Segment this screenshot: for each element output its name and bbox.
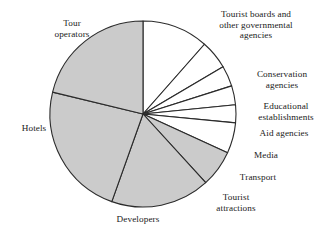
pie-label-developers: Developers: [98, 214, 178, 225]
pie-label-conservation-agencies: Conservation agencies: [240, 69, 324, 90]
pie-slice-group: [50, 21, 236, 207]
pie-label-tour-operators: Tour operators: [38, 18, 106, 39]
pie-label-tourist-attractions: Tourist attractions: [200, 192, 272, 213]
pie-label-tourist-boards: Tourist boards and other governmental ag…: [196, 9, 316, 41]
pie-label-aid-agencies: Aid agencies: [244, 128, 324, 139]
pie-label-educational-establishments: Educational establishments: [244, 101, 328, 122]
pie-chart-figure: Tourist boards and other governmental ag…: [0, 0, 329, 236]
pie-label-transport: Transport: [224, 172, 292, 183]
pie-label-hotels: Hotels: [10, 123, 58, 134]
pie-label-media: Media: [236, 150, 296, 161]
